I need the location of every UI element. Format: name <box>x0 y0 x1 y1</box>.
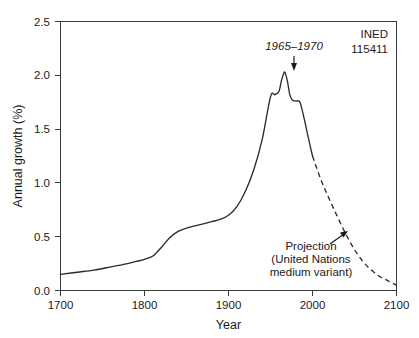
y-tick-label: 2.5 <box>34 16 50 28</box>
x-tick-label: 2100 <box>384 299 410 311</box>
y-tick-label: 1.5 <box>34 123 50 135</box>
y-tick-label: 2.0 <box>34 69 50 81</box>
credit-organization: INED <box>361 28 388 40</box>
y-tick-label: 0.0 <box>34 285 50 297</box>
x-axis-title: Year <box>216 318 241 332</box>
y-tick-label: 1.0 <box>34 177 50 189</box>
projection-annotation-line-3: medium variant) <box>270 266 353 278</box>
peak-annotation-label: 1965–1970 <box>265 40 323 52</box>
chart-figure: 0.0 0.5 1.0 1.5 2.0 2.5 1700 1800 1900 2… <box>0 0 419 338</box>
y-axis-title: Annual growth (%) <box>11 105 25 208</box>
credit-reference: 115411 <box>351 43 388 55</box>
x-tick-label: 1700 <box>48 299 74 311</box>
projection-annotation-line-2: (United Nations <box>271 253 351 265</box>
x-tick-label: 2000 <box>300 299 326 311</box>
x-tick-label: 1900 <box>216 299 242 311</box>
population-growth-line-chart: 0.0 0.5 1.0 1.5 2.0 2.5 1700 1800 1900 2… <box>0 0 419 338</box>
x-tick-label: 1800 <box>132 299 158 311</box>
y-tick-label: 0.5 <box>34 231 50 243</box>
projection-annotation-line-1: Projection <box>285 240 336 252</box>
